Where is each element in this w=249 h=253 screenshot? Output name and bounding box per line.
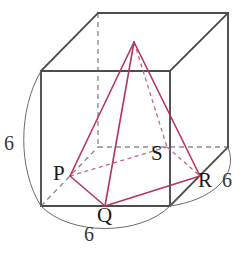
vertex-label-P: P <box>53 163 65 184</box>
pyramid-hidden-edge-S-R <box>167 147 200 176</box>
cube-edge-top-right-diag <box>170 13 228 71</box>
figure-canvas <box>0 0 249 253</box>
pyramid-edge-apex-Q <box>105 42 134 206</box>
vertex-label-S: S <box>151 143 163 164</box>
pyramid-solid-edges <box>70 42 200 206</box>
pyramid-edge-P-Q <box>70 176 105 206</box>
vertex-label-R: R <box>198 170 212 191</box>
pyramid-edge-apex-R <box>134 42 200 176</box>
pyramid-edge-apex-P <box>70 42 134 176</box>
cube-edge-top-left-diag <box>41 13 98 71</box>
dimension-label-bottom: 6 <box>84 224 94 244</box>
pyramid-hidden-edges <box>70 42 200 176</box>
pyramid-hidden-edge-apex-S <box>134 42 167 147</box>
dimension-arcs <box>24 71 231 229</box>
dimension-label-left: 6 <box>4 133 14 153</box>
dimension-arc-left <box>24 71 41 206</box>
geometry-figure: P Q S R 6 6 6 <box>0 0 249 253</box>
dimension-label-right: 6 <box>222 170 232 190</box>
vertex-label-Q: Q <box>97 205 112 226</box>
